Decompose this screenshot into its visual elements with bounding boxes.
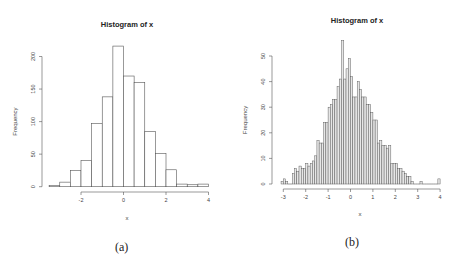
histogram-bar xyxy=(404,174,406,184)
histogram-bar xyxy=(295,169,297,184)
histogram-bar xyxy=(339,79,341,184)
histogram-bar xyxy=(145,131,156,186)
histogram-bar xyxy=(319,143,321,184)
chart-title: Histogram of x xyxy=(101,20,154,29)
y-tick-label: 0 xyxy=(260,182,266,185)
x-tick-label: 3 xyxy=(416,194,419,200)
histogram-bars xyxy=(281,41,440,184)
histogram-bar xyxy=(389,146,391,184)
x-tick-label: 4 xyxy=(207,197,210,203)
histogram-bar xyxy=(368,105,370,184)
y-axis-label: Frequency xyxy=(242,106,248,134)
histogram-bar xyxy=(409,176,411,184)
histogram-bar xyxy=(328,107,330,184)
histogram-bar xyxy=(400,169,402,184)
histogram-bar xyxy=(357,82,359,184)
histogram-bar xyxy=(60,182,71,187)
histogram-bar xyxy=(102,97,113,187)
histogram-bar xyxy=(398,169,400,184)
histogram-bar xyxy=(92,124,103,187)
histogram-bar xyxy=(335,100,337,184)
histogram-bar xyxy=(326,123,328,184)
histogram-bar xyxy=(393,164,395,184)
histogram-bar xyxy=(353,97,355,184)
histogram-bar xyxy=(281,181,283,184)
histogram-bar xyxy=(155,153,166,186)
histogram-bar xyxy=(402,171,404,184)
histogram-bar xyxy=(337,87,339,184)
histogram-panel-a: Histogram of x050100150200Frequency-2024… xyxy=(0,0,227,230)
histogram-bar xyxy=(364,97,366,184)
histogram-bar xyxy=(134,83,145,187)
histogram-bar xyxy=(420,181,422,184)
histogram-bar xyxy=(366,105,368,184)
histogram-bar xyxy=(380,140,382,184)
x-tick-label: 0 xyxy=(122,197,125,203)
x-tick-label: 2 xyxy=(394,194,397,200)
histogram-bar xyxy=(344,79,346,184)
y-tick-label: 10 xyxy=(260,155,266,161)
histogram-bar xyxy=(113,46,124,187)
histogram-bar xyxy=(49,185,60,186)
y-tick-label: 0 xyxy=(30,185,36,188)
histogram-bar xyxy=(359,89,361,184)
x-tick-label: 0 xyxy=(349,194,352,200)
y-axis: 01020304050 xyxy=(260,53,272,186)
y-tick-label: 40 xyxy=(260,79,266,85)
caption-b: (b) xyxy=(345,235,359,250)
y-tick-label: 20 xyxy=(260,130,266,136)
histogram-bar xyxy=(371,112,373,184)
y-axis: 050100150200 xyxy=(30,52,42,188)
histogram-bar xyxy=(362,97,364,184)
histogram-bar xyxy=(375,120,377,184)
histogram-bar xyxy=(303,169,305,184)
y-tick-label: 150 xyxy=(30,84,36,93)
histogram-bar xyxy=(187,185,198,187)
histogram-bar xyxy=(312,161,314,184)
x-axis-label: x xyxy=(126,215,129,221)
histogram-bar xyxy=(342,41,344,184)
histogram-bar xyxy=(395,164,397,184)
histogram-bar xyxy=(438,179,440,184)
caption-a: (a) xyxy=(115,240,128,255)
histogram-bar xyxy=(346,69,348,184)
histogram-bars xyxy=(49,46,208,187)
histogram-bar xyxy=(198,184,209,187)
histogram-panel-b: Histogram of x01020304050Frequency-3-2-1… xyxy=(227,0,454,230)
histogram-bar xyxy=(386,148,388,184)
x-axis-label: x xyxy=(359,211,362,217)
y-tick-label: 30 xyxy=(260,104,266,110)
histogram-bar xyxy=(177,184,188,187)
histogram-bar xyxy=(382,146,384,184)
histogram-bar xyxy=(283,179,285,184)
y-tick-label: 50 xyxy=(30,151,36,157)
x-axis: -3-2-101234 xyxy=(281,189,442,200)
histogram-bar xyxy=(355,97,357,184)
histogram-bar xyxy=(306,164,308,184)
histogram-bar xyxy=(321,143,323,184)
histogram-bar xyxy=(407,176,409,184)
histogram-chart-b: Histogram of x01020304050Frequency-3-2-1… xyxy=(227,0,454,230)
x-axis: -2024 xyxy=(79,192,210,203)
histogram-bar xyxy=(292,174,294,184)
histogram-bar xyxy=(317,140,319,184)
histogram-bar xyxy=(348,59,350,184)
x-tick-label: -2 xyxy=(79,197,84,203)
histogram-bar xyxy=(324,123,326,184)
x-tick-label: -1 xyxy=(326,194,331,200)
y-tick-label: 50 xyxy=(260,53,266,59)
y-tick-label: 200 xyxy=(30,52,36,61)
histogram-bar xyxy=(310,164,312,184)
histogram-bar xyxy=(70,170,81,186)
histogram-bar xyxy=(351,76,353,184)
x-tick-label: -2 xyxy=(303,194,308,200)
histogram-bar xyxy=(124,76,135,187)
histogram-bar xyxy=(308,166,310,184)
histogram-bar xyxy=(81,161,92,187)
histogram-bar xyxy=(297,171,299,184)
histogram-bar xyxy=(373,120,375,184)
x-tick-label: 2 xyxy=(164,197,167,203)
chart-title: Histogram of x xyxy=(331,16,384,25)
histogram-bar xyxy=(166,170,177,187)
histogram-bar xyxy=(391,164,393,184)
